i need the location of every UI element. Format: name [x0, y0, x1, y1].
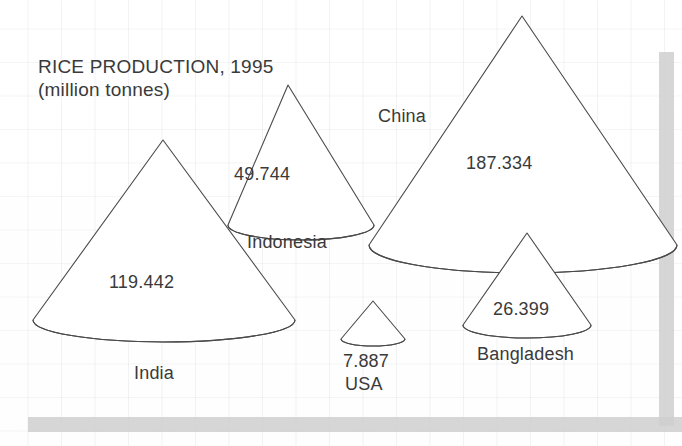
cone-usa-body — [341, 301, 405, 346]
cone-china-body — [369, 16, 677, 273]
value-label-indonesia: 49.744 — [234, 164, 290, 185]
value-label-china: 187.334 — [466, 153, 532, 174]
country-label-india: India — [134, 363, 174, 384]
figure-subtitle: (million tonnes) — [38, 79, 170, 101]
value-label-bangladesh: 26.399 — [493, 299, 549, 320]
country-label-china: China — [378, 106, 426, 127]
country-label-indonesia: Indonesia — [247, 232, 327, 253]
value-label-usa: 7.887 — [343, 351, 389, 372]
cone-usa — [341, 301, 405, 346]
country-label-bangladesh: Bangladesh — [477, 344, 574, 365]
figure-title: RICE PRODUCTION, 1995 — [38, 56, 273, 78]
rice-production-figure: RICE PRODUCTION, 1995 (million tonnes) 1… — [0, 0, 682, 446]
country-label-usa: USA — [345, 374, 383, 395]
cone-china — [369, 16, 677, 273]
value-label-india: 119.442 — [109, 272, 174, 293]
cone-indonesia — [228, 85, 374, 240]
cone-indonesia-body — [228, 85, 374, 240]
